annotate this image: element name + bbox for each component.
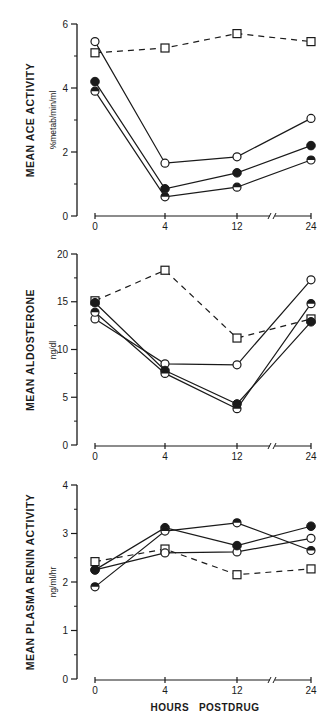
plasma-renin-panel: MEAN PLASMA RENIN ACTIVITY ng/ml/hr 0123… — [24, 480, 317, 697]
aldosterone-panel: MEAN ALDOSTERONE ng/dl 05101520 041224 — [24, 249, 317, 463]
y-tick-label: 0 — [62, 674, 68, 685]
y-axis-title: MEAN ACE ACTIVITY — [24, 63, 36, 177]
series-half-circle — [91, 300, 315, 413]
x-tick-label: 12 — [231, 221, 243, 232]
open-circle-marker — [307, 114, 315, 122]
y-tick-label: 0 — [62, 211, 68, 222]
series-line — [95, 526, 311, 570]
x-tick-label: 4 — [162, 451, 168, 462]
half-circle-marker — [161, 369, 169, 377]
y-tick-label: 4 — [62, 83, 68, 94]
open-circle-marker — [233, 361, 241, 369]
open-circle-marker — [161, 159, 169, 167]
y-tick-label: 0 — [62, 440, 68, 451]
series-half-circle — [91, 87, 315, 201]
y-axis-title: MEAN ALDOSTERONE — [24, 289, 36, 411]
x-tick-label: 0 — [92, 451, 98, 462]
x-tick-label: 24 — [305, 451, 317, 462]
square-marker — [161, 266, 169, 274]
series-open-circle — [91, 38, 315, 168]
series-open-square — [91, 30, 315, 57]
square-marker — [233, 334, 241, 342]
x-tick-labels: 041224 — [92, 451, 317, 462]
y-tick-labels: 0246 — [62, 19, 68, 222]
filled-circle-marker — [91, 566, 100, 575]
y-tick-label: 2 — [62, 577, 68, 588]
y-axis-title: MEAN PLASMA RENIN ACTIVITY — [24, 494, 36, 671]
half-circle-marker — [233, 183, 241, 191]
x-axis-title: HOURS POSTDRUG — [150, 702, 259, 713]
square-marker — [91, 558, 99, 566]
filled-circle-marker — [307, 522, 316, 531]
y-tick-label: 3 — [62, 528, 68, 539]
half-circle-marker — [161, 527, 169, 535]
x-tick-label: 12 — [231, 685, 243, 696]
square-marker — [161, 44, 169, 52]
open-circle-marker — [91, 38, 99, 46]
square-marker — [307, 38, 315, 46]
half-circle-marker — [307, 300, 315, 308]
square-marker — [233, 571, 241, 579]
data-series — [91, 266, 316, 412]
square-marker — [307, 565, 315, 573]
x-tick-label: 0 — [92, 685, 98, 696]
square-marker — [91, 49, 99, 57]
y-tick-label: 6 — [62, 19, 68, 30]
y-tick-label: 10 — [57, 344, 69, 355]
x-tick-label: 4 — [162, 221, 168, 232]
y-tick-labels: 05101520 — [57, 249, 69, 451]
half-circle-marker — [307, 546, 315, 554]
y-axis-unit: ng/ml/hr — [48, 566, 58, 597]
axes — [71, 24, 311, 219]
y-tick-label: 2 — [62, 147, 68, 158]
figure: MEAN ACE ACTIVITY %metab/min/ml 0246 041… — [0, 0, 331, 727]
y-tick-labels: 01234 — [62, 480, 68, 685]
y-tick-label: 4 — [62, 480, 68, 491]
series-filled-circle — [91, 522, 316, 574]
series-open-square — [91, 545, 315, 579]
data-series — [91, 519, 316, 591]
y-tick-label: 5 — [62, 392, 68, 403]
series-line — [95, 523, 311, 587]
open-circle-marker — [233, 153, 241, 161]
data-series — [91, 30, 316, 201]
x-tick-label: 24 — [305, 221, 317, 232]
x-tick-label: 4 — [162, 685, 168, 696]
y-tick-label: 15 — [57, 296, 69, 307]
series-line — [95, 280, 311, 365]
series-open-circle — [91, 534, 315, 574]
x-tick-label: 24 — [305, 685, 317, 696]
half-circle-marker — [91, 308, 99, 316]
y-tick-label: 20 — [57, 249, 69, 260]
open-circle-marker — [161, 549, 169, 557]
half-circle-marker — [307, 156, 315, 164]
half-circle-marker — [91, 583, 99, 591]
x-tick-label: 0 — [92, 221, 98, 232]
half-circle-marker — [161, 193, 169, 201]
series-line — [95, 538, 311, 570]
half-circle-marker — [233, 405, 241, 413]
axes — [71, 485, 311, 683]
open-circle-marker — [307, 276, 315, 284]
filled-circle-marker — [307, 141, 316, 150]
y-axis-unit: %metab/min/ml — [48, 91, 58, 150]
x-tick-labels: 041224 — [92, 685, 317, 696]
x-tick-label: 12 — [231, 451, 243, 462]
half-circle-marker — [233, 519, 241, 527]
ace-activity-panel: MEAN ACE ACTIVITY %metab/min/ml 0246 041… — [24, 19, 317, 233]
square-marker — [233, 30, 241, 38]
series-line — [95, 270, 311, 338]
series-line — [95, 34, 311, 53]
filled-circle-marker — [233, 541, 242, 550]
series-line — [95, 42, 311, 164]
axes — [71, 254, 311, 449]
open-circle-marker — [307, 534, 315, 542]
half-circle-marker — [91, 87, 99, 95]
x-tick-labels: 041224 — [92, 221, 317, 232]
y-tick-label: 1 — [62, 625, 68, 636]
filled-circle-marker — [91, 298, 100, 307]
filled-circle-marker — [233, 169, 242, 178]
series-half-circle — [91, 519, 315, 591]
filled-circle-marker — [307, 318, 316, 327]
series-line — [95, 304, 311, 409]
